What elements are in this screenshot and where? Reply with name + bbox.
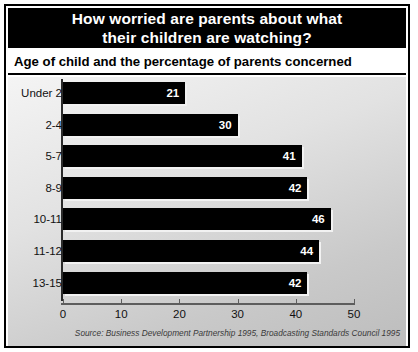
category-label: Under 2 [8,82,62,104]
bar: 21 [63,82,185,104]
bar: 30 [63,114,238,136]
bar: 44 [63,240,319,262]
bar-track: 42 [63,272,354,294]
bar: 42 [63,177,307,199]
x-axis-tick-label: 40 [276,308,316,320]
category-label: 13-15 [8,272,62,294]
bar: 41 [63,145,302,167]
x-axis-tick [238,299,239,305]
bar-value-label: 42 [289,272,302,294]
x-axis-tick-label: 50 [334,308,374,320]
x-axis-tick [354,299,355,305]
chart-subtitle: Age of child and the percentage of paren… [8,54,352,69]
bar-track: 46 [63,208,354,230]
bar-value-label: 42 [289,177,302,199]
plot-region: Under 2212-4305-7418-94210-114611-124413… [8,77,406,346]
bar-track: 30 [63,114,354,136]
bar-track: 42 [63,177,354,199]
chart-title-banner: How worried are parents about what their… [8,8,406,48]
chart-subtitle-bar: Age of child and the percentage of paren… [8,50,406,75]
chart-source: Source: Business Development Partnership… [75,328,400,338]
x-axis-tick [296,299,297,305]
chart-title-line-2: their children are watching? [102,28,312,47]
bar: 46 [63,208,331,230]
bar-track: 41 [63,145,354,167]
bar-track: 21 [63,82,354,104]
category-label: 11-12 [8,240,62,262]
chart-figure: How worried are parents about what their… [0,0,418,352]
category-label: 8-9 [8,177,62,199]
x-axis-tick [63,299,64,305]
bar-value-label: 30 [219,114,232,136]
x-axis-tick [121,299,122,305]
x-axis-line [61,303,354,305]
chart-frame: How worried are parents about what their… [4,4,410,348]
bar-value-label: 41 [283,145,296,167]
bar-value-label: 21 [166,82,179,104]
x-axis-tick-label: 20 [159,308,199,320]
category-label: 2-4 [8,114,62,136]
bar-value-label: 46 [312,208,325,230]
category-label: 10-11 [8,208,62,230]
x-axis-tick-label: 10 [101,308,141,320]
bar-track: 44 [63,240,354,262]
x-axis-tick-label: 0 [43,308,83,320]
x-axis-tick-label: 30 [218,308,258,320]
chart-title-line-1: How worried are parents about what [72,9,342,28]
chart-plot-area: Under 2212-4305-7418-94210-114611-124413… [8,77,406,309]
bar-value-label: 44 [300,240,313,262]
category-label: 5-7 [8,145,62,167]
bar: 42 [63,272,307,294]
x-axis-tick [179,299,180,305]
